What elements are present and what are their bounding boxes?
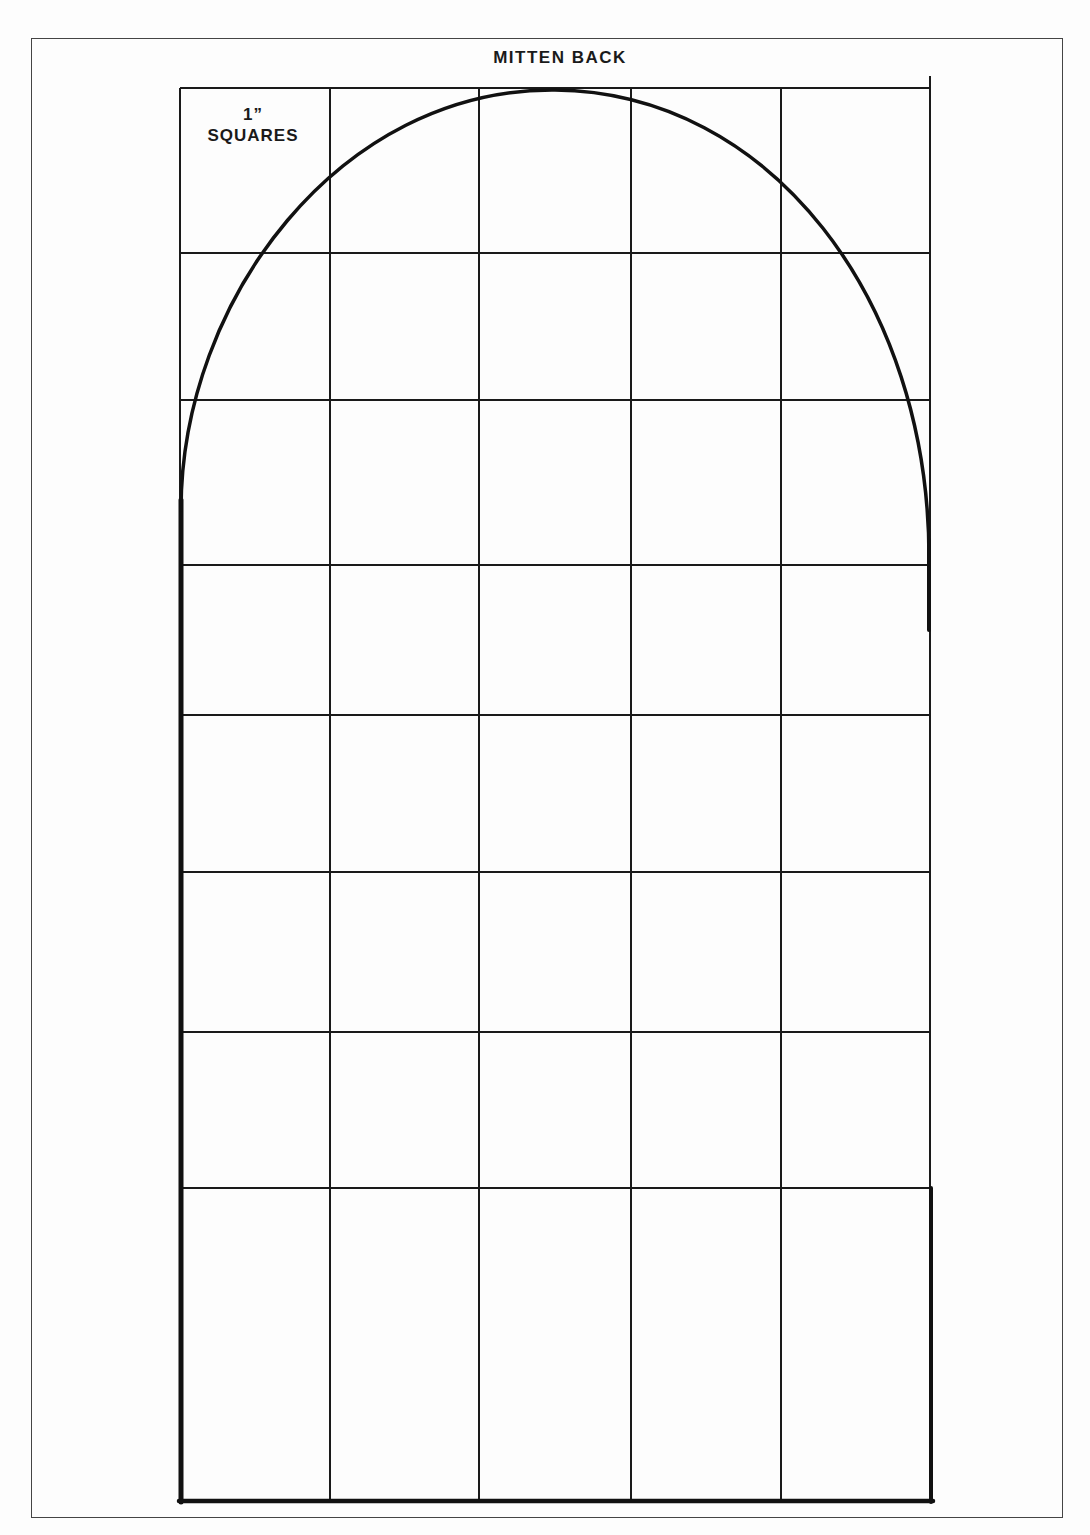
grid-horizontal-lines xyxy=(180,88,930,1188)
scale-label: 1” SQUARES xyxy=(182,104,324,146)
pattern-grid-diagram xyxy=(0,0,1090,1535)
mitten-outline xyxy=(179,90,933,1502)
scale-label-unit: SQUARES xyxy=(182,125,324,146)
pattern-page: MITTEN BACK xyxy=(0,0,1090,1535)
grid-vertical-lines xyxy=(330,88,781,1500)
grid-outer-lines xyxy=(180,76,930,1500)
scale-label-size: 1” xyxy=(182,104,324,125)
